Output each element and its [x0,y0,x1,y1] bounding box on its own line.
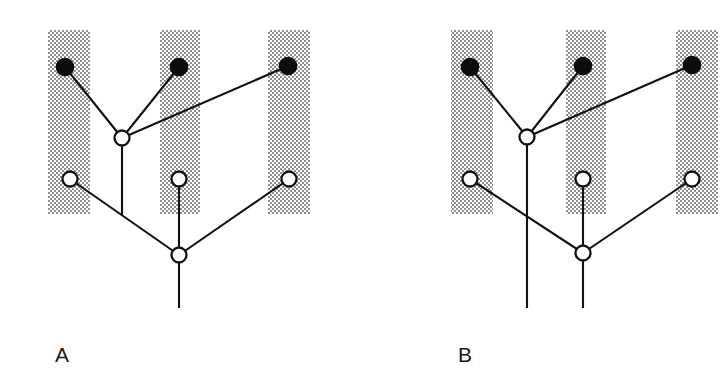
open-node-root [576,246,591,261]
filled-node-middle [575,58,592,75]
open-node-root [172,248,187,263]
filled-node-middle [171,59,188,76]
filled-node-left [462,59,479,76]
open-node-upper-internal [520,130,535,145]
filled-node-right [684,57,701,74]
open-node-leaf-right [282,172,297,187]
open-node-upper-internal [115,131,130,146]
open-node-leaf-middle [172,172,187,187]
open-node-leaf-middle [576,172,591,187]
open-node-leaf-right [685,172,700,187]
panel-b-label: B [458,343,473,366]
open-node-leaf-left [463,172,478,187]
filled-node-right [280,58,297,75]
figure-background [0,0,726,392]
filled-node-left [57,59,74,76]
open-node-leaf-left [63,172,78,187]
phylogenetic-tree-figure: A B [0,0,726,392]
panel-a-label: A [55,343,70,366]
